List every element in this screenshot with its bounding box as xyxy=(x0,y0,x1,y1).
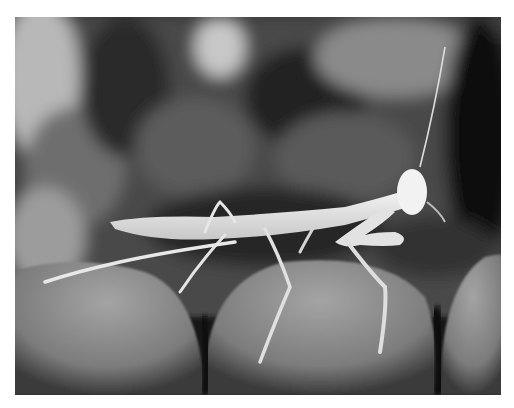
mantis-photo-illustration xyxy=(15,17,501,395)
photo xyxy=(15,17,501,395)
